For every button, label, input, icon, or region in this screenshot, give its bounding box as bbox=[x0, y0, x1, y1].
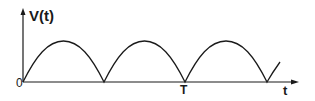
origin-label: 0 bbox=[16, 77, 23, 89]
period-tick-label: T bbox=[180, 84, 187, 96]
x-axis-label: t bbox=[283, 84, 287, 97]
x-axis-arrow-icon bbox=[291, 80, 299, 85]
y-axis-label: V(t) bbox=[29, 8, 54, 23]
waveform-curve bbox=[23, 41, 280, 82]
y-axis-arrow-icon bbox=[21, 8, 26, 15]
